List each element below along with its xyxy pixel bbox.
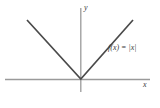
x-axis-label: x — [143, 81, 147, 89]
plot-background — [0, 0, 160, 108]
figure-container: y x f(x) = |x| — [0, 0, 160, 108]
plot-canvas — [0, 0, 160, 108]
function-equation-label: f(x) = |x| — [108, 44, 136, 52]
y-axis-label: y — [84, 4, 88, 12]
